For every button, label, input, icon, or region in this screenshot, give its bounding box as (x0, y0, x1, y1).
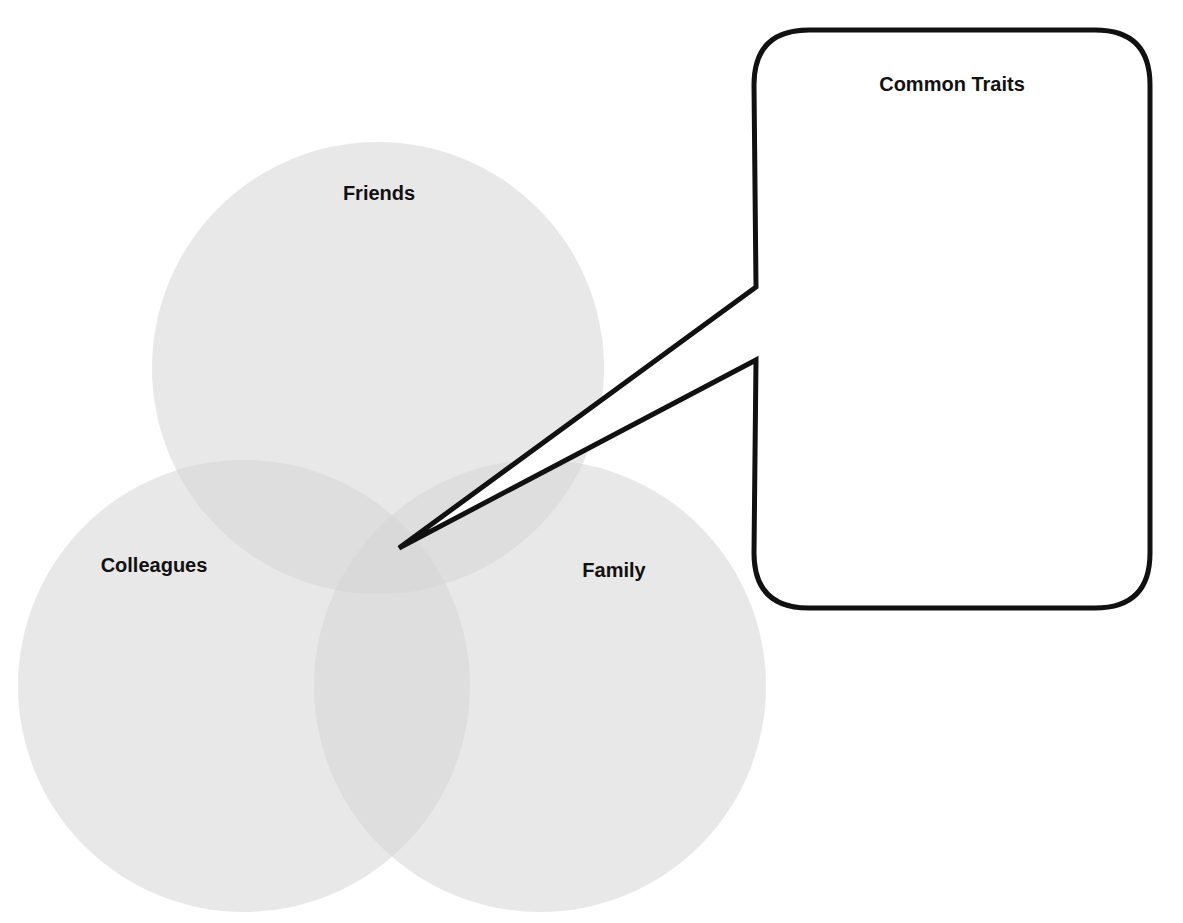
circle-family (314, 460, 766, 912)
venn-circles (18, 142, 766, 912)
callout-title: Common Traits (879, 73, 1025, 95)
label-friends: Friends (343, 182, 415, 204)
label-colleagues: Colleagues (101, 554, 208, 576)
label-family: Family (582, 559, 646, 581)
venn-diagram: Friends Colleagues Family Common Traits (0, 0, 1183, 923)
